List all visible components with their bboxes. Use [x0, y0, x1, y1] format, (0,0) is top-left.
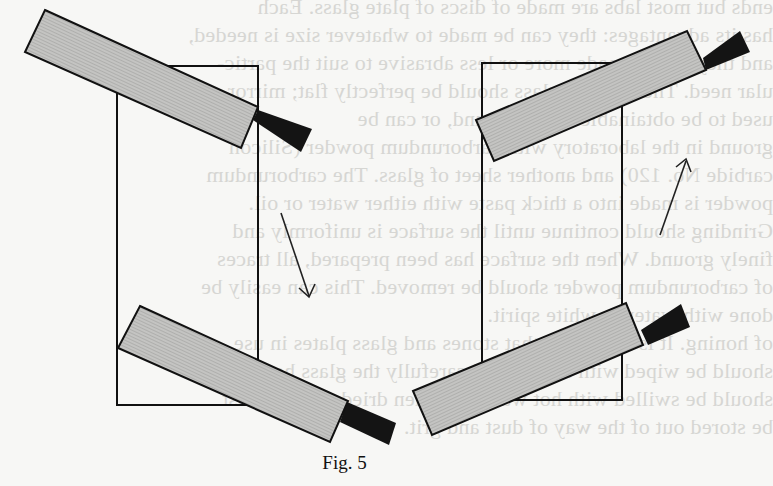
left-arrow-down-right-icon [281, 213, 315, 297]
left-top-knife-icon [25, 10, 312, 152]
right-panel [413, 31, 750, 435]
book-page: ends but most labs are made of discs of … [0, 0, 773, 486]
right-arrow-up-right-icon [660, 159, 691, 235]
figure-5-diagram [0, 0, 773, 486]
figure-caption: Fig. 5 [0, 452, 773, 474]
right-bottom-knife-icon [413, 303, 690, 435]
figure-caption-text: Fig. 5 [322, 452, 366, 473]
left-panel [25, 10, 396, 445]
right-top-knife-icon [476, 31, 750, 161]
